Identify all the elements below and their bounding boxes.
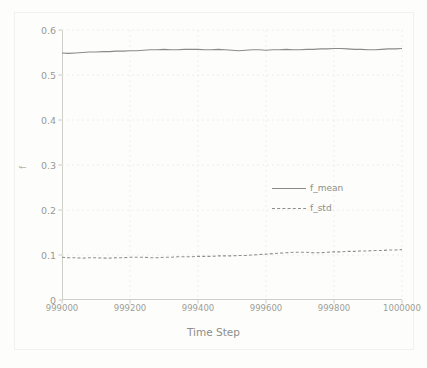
legend-swatch-dashed-icon (272, 204, 306, 213)
chart-figure: 00.10.20.30.40.50.6 f 999000999200999400… (0, 0, 427, 368)
x-tick-label: 999000 (46, 303, 78, 313)
plot-canvas (62, 30, 402, 300)
y-tick-label: 0.6 (41, 25, 56, 36)
y-tick-label: 0.2 (41, 205, 56, 216)
legend-label-f-mean: f_mean (310, 183, 343, 193)
axis-tick-marks (59, 30, 403, 304)
chart-legend: f_mean f_std (272, 178, 382, 218)
x-tick-label: 999400 (182, 303, 214, 313)
gridlines (62, 30, 402, 300)
legend-item-f-mean: f_mean (272, 178, 382, 198)
y-tick-label: 0.5 (41, 70, 56, 81)
y-tick-label: 0.4 (41, 115, 56, 126)
x-tick-label: 999600 (250, 303, 282, 313)
series-line-f-std (62, 250, 402, 259)
y-tick-label: 0.3 (41, 160, 56, 171)
legend-swatch-solid-icon (272, 184, 306, 193)
x-tick-label: 1000000 (383, 303, 421, 313)
x-axis-tick-labels: 9990009992009994009996009998001000000 (62, 303, 402, 319)
y-axis-label: f (18, 166, 28, 169)
x-axis-label: Time Step (0, 326, 427, 338)
plot-area (62, 30, 402, 300)
x-tick-label: 999800 (318, 303, 350, 313)
series-line-f-mean (62, 48, 402, 53)
legend-item-f-std: f_std (272, 198, 382, 218)
y-tick-label: 0.1 (41, 250, 56, 261)
x-tick-label: 999200 (114, 303, 146, 313)
legend-label-f-std: f_std (310, 203, 332, 213)
